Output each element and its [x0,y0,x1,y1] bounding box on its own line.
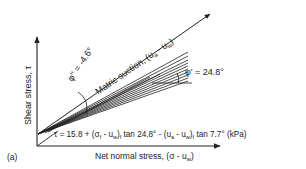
equation-label: τ = 15.8 + (σf - uw)f tan 24.8° - (ua - … [54,130,247,140]
phi-b-label: φ'' = -4.6° [65,45,95,83]
phi-prime-label: φ' = 24.8° [185,67,224,77]
failure-envelope-lines [38,52,188,134]
y-axis-label: Shear stress, τ [23,65,33,125]
x-axis-label: Net normal stress, (σ - uw) [95,151,194,162]
panel-label: (a) [7,152,18,162]
shear-strength-diagram: Shear stress, τ Matric suction, (ua - uw… [0,0,306,169]
